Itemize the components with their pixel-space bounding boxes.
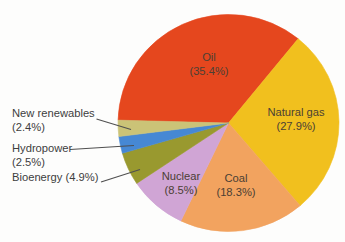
slice-label-oil-pct: (35.4%) bbox=[189, 65, 228, 79]
callout-hydropower-name: Hydropower bbox=[12, 142, 72, 156]
callout-new-renewables-pct: (2.4%) bbox=[12, 121, 95, 135]
slice-label-oil: Oil (35.4%) bbox=[189, 51, 228, 78]
callout-label-hydropower: Hydropower (2.5%) bbox=[12, 142, 72, 169]
slice-label-natural-gas-pct: (27.9%) bbox=[267, 120, 324, 134]
slice-label-nuclear-pct: (8.5%) bbox=[162, 184, 201, 198]
slice-label-nuclear-name: Nuclear bbox=[162, 170, 201, 184]
callout-bioenergy-name: Bioenergy (4.9%) bbox=[12, 171, 98, 185]
callout-label-new-renewables: New renewables (2.4%) bbox=[12, 107, 95, 134]
slice-label-natural-gas-name: Natural gas bbox=[267, 106, 324, 120]
slice-label-coal-name: Coal bbox=[216, 172, 255, 186]
slice-label-coal-pct: (18.3%) bbox=[216, 186, 255, 200]
callout-label-bioenergy: Bioenergy (4.9%) bbox=[12, 171, 98, 185]
callout-new-renewables-name: New renewables bbox=[12, 107, 95, 121]
callout-hydropower-pct: (2.5%) bbox=[12, 156, 72, 170]
slice-label-oil-name: Oil bbox=[189, 51, 228, 65]
energy-pie-chart-figure: Oil (35.4%) Natural gas (27.9%) Coal (18… bbox=[0, 0, 345, 242]
slice-label-nuclear: Nuclear (8.5%) bbox=[162, 170, 201, 197]
slice-label-coal: Coal (18.3%) bbox=[216, 172, 255, 199]
slice-label-natural-gas: Natural gas (27.9%) bbox=[267, 106, 324, 133]
